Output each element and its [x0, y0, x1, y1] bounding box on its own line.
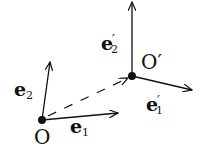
label-e2: e2	[14, 80, 33, 101]
label-o-prime: O′	[141, 52, 162, 72]
origin-o-dot	[38, 116, 46, 124]
displacement-dashed-arrow	[48, 78, 128, 116]
origin-o-prime-dot	[128, 72, 136, 80]
e2-sub: 2	[26, 89, 33, 102]
label-e2-prime: e′2	[101, 33, 118, 55]
diagram-svg	[0, 0, 213, 157]
e1p-sub: 1	[156, 104, 163, 117]
label-e1-prime: e′1	[146, 94, 163, 116]
e2-base: e	[14, 78, 26, 100]
frame-o-prime	[128, 2, 192, 90]
e2-arrow	[42, 62, 50, 120]
e2p-sub: 2	[111, 43, 118, 56]
e1-sub: 1	[82, 126, 89, 139]
label-o: O	[34, 127, 50, 147]
e1-base: e	[70, 115, 82, 137]
label-e1: e1	[70, 117, 89, 138]
diagram-canvas: O O′ e1 e2 e′1 e′2	[0, 0, 213, 157]
e1-prime-arrow	[132, 76, 192, 90]
